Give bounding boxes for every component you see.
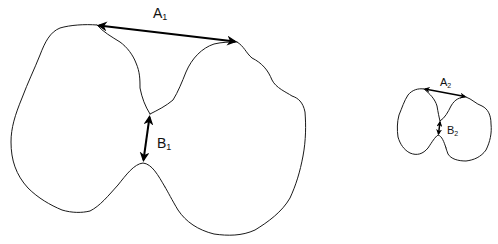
small-shape [397,89,491,161]
large-left-lobe-outline [11,25,165,213]
diagram-canvas: A1 B1 A2 B2 [0,0,498,244]
b2-arrow [439,122,441,134]
b1-arrow [144,117,150,160]
large-shape [11,25,306,236]
small-inner-right-edge [440,97,466,121]
small-inner-left-edge [424,89,440,121]
small-left-lobe-outline [397,89,446,155]
a2-label: A2 [440,76,451,89]
a1-arrow [99,26,235,42]
b2-label: B2 [447,124,458,137]
large-inner-right-edge [150,42,237,114]
a1-label: A1 [153,5,167,22]
large-inner-left-edge [97,25,150,114]
b1-label: B1 [157,135,171,152]
